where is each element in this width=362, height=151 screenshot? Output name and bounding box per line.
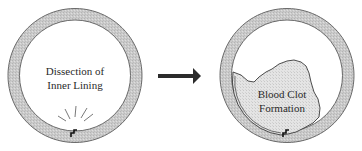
label-clot-line1: Blood Clot bbox=[258, 88, 307, 100]
dissection-tear-marks-icon bbox=[58, 106, 93, 121]
vessel-cross-section-dissection: Dissection of Inner Lining bbox=[8, 9, 142, 143]
vessel-cross-section-clot: Blood Clot Formation bbox=[220, 9, 354, 143]
label-dissection-line1: Dissection of bbox=[46, 65, 105, 77]
label-dissection-line2: Inner Lining bbox=[47, 79, 103, 91]
progression-arrow-icon bbox=[158, 68, 201, 84]
diagram-canvas: Dissection of Inner Lining Blood Clot Fo… bbox=[0, 0, 362, 151]
label-clot-line2: Formation bbox=[259, 102, 305, 114]
